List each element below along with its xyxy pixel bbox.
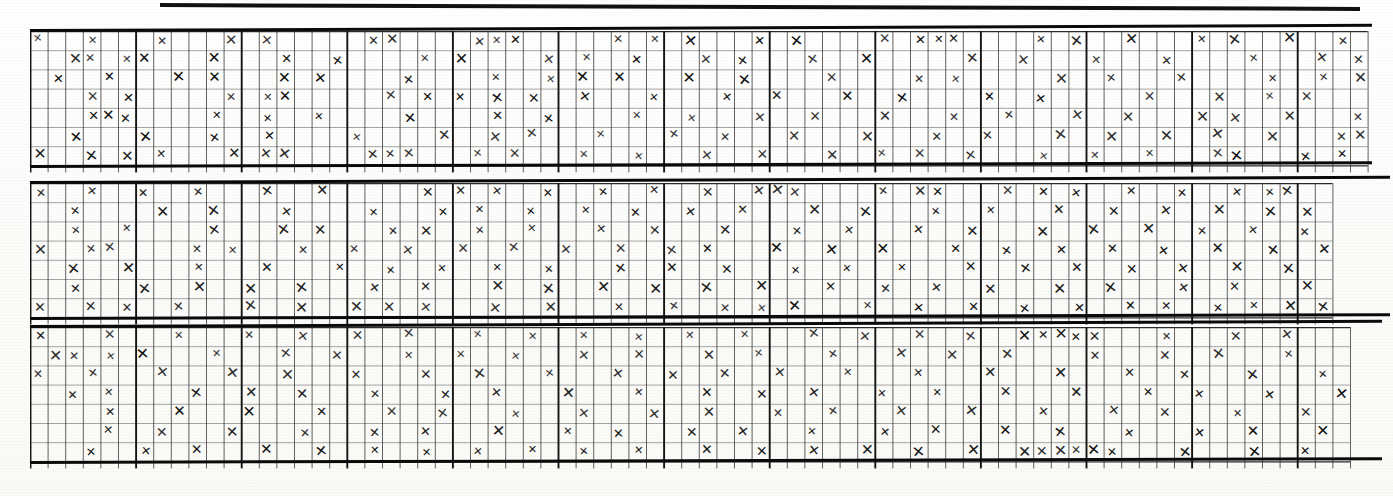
- grid-band-3: ✕✕✕✕✕✕✕✕✕✕✕✕✕✕✕✕✕✕✕✕✕✕✕✕✕✕✕✕✕✕✕✕✕✕✕✕✕✕✕✕…: [30, 327, 1390, 487]
- top-horizontal-rule: [160, 3, 1360, 11]
- band-gridlines: [30, 31, 1393, 193]
- band-gridlines: [30, 327, 1393, 489]
- grid-band-2: ✕✕✕✕✕✕✕✕✕✕✕✕✕✕✕✕✕✕✕✕✕✕✕✕✕✕✕✕✕✕✕✕✕✕✕✕✕✕✕✕…: [30, 183, 1372, 343]
- scanned-sheet: ✕✕✕✕✕✕✕✕✕✕✕✕✕✕✕✕✕✕✕✕✕✕✕✕✕✕✕✕✕✕✕✕✕✕✕✕✕✕✕✕…: [0, 0, 1393, 496]
- grid-band-1: ✕✕✕✕✕✕✕✕✕✕✕✕✕✕✕✕✕✕✕✕✕✕✕✕✕✕✕✕✕✕✕✕✕✕✕✕✕✕✕✕…: [30, 31, 1393, 191]
